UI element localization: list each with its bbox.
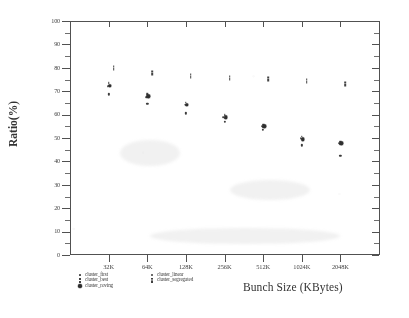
legend-marker-dot-icon xyxy=(78,272,82,277)
data-point xyxy=(345,81,347,86)
y-axis-tick-major xyxy=(62,208,70,209)
y-axis-tick-minor xyxy=(65,220,70,221)
data-point xyxy=(185,112,187,114)
y-axis-tick-minor xyxy=(65,103,70,104)
x-axis-tick-top xyxy=(302,21,303,27)
y-axis-tick-right xyxy=(372,21,379,22)
legend-marker-star-icon xyxy=(78,283,82,288)
x-axis-tick-top xyxy=(225,21,226,27)
marker-bar-icon xyxy=(306,79,308,84)
data-point xyxy=(107,93,109,95)
y-axis-tick-right xyxy=(372,255,379,256)
data-point xyxy=(151,70,153,75)
y-axis-label: 10 xyxy=(54,228,60,234)
y-axis-tick-minor xyxy=(65,173,70,174)
marker-glyph xyxy=(79,274,81,276)
legend-marker-sq-icon xyxy=(150,272,154,277)
x-axis-tick xyxy=(340,255,341,262)
y-axis-tick-major xyxy=(62,255,70,256)
y-axis-label: 30 xyxy=(54,182,60,188)
data-point xyxy=(262,128,264,130)
y-axis-tick-right xyxy=(374,150,379,151)
y-axis-tick-minor xyxy=(65,126,70,127)
x-axis-tick xyxy=(109,255,110,262)
x-axis-title: Bunch Size (KBytes) xyxy=(243,281,343,293)
marker-star-icon xyxy=(340,142,343,145)
marker-sq-icon xyxy=(223,120,225,122)
x-axis-label: 64K xyxy=(127,263,167,270)
marker-glyph xyxy=(78,284,81,287)
y-axis-tick-major xyxy=(62,21,70,22)
x-axis-tick-top xyxy=(109,21,110,27)
legend-column-right: cluster_linearcluster_segregated xyxy=(150,272,193,283)
y-axis-tick-major xyxy=(62,91,70,92)
y-axis-tick-major xyxy=(62,138,70,139)
y-axis-tick-major xyxy=(62,68,70,69)
y-axis-tick-right xyxy=(372,68,379,69)
marker-star-icon xyxy=(224,115,227,118)
y-axis-label: 60 xyxy=(54,111,60,117)
y-axis-label: 90 xyxy=(54,41,60,47)
marker-bar-icon xyxy=(345,81,347,86)
scatter-chart-figure: 0102030405060708090100 32K64K128K256K512… xyxy=(0,0,409,318)
y-axis-tick-minor xyxy=(65,243,70,244)
y-axis-tick-right xyxy=(372,138,379,139)
x-axis-tick-top xyxy=(263,21,264,27)
data-point xyxy=(224,115,227,118)
y-axis-label: 100 xyxy=(51,18,60,24)
y-axis-label: 40 xyxy=(54,158,60,164)
data-point xyxy=(113,65,115,70)
y-axis-tick-minor xyxy=(65,80,70,81)
y-axis-label: 80 xyxy=(54,65,60,71)
y-axis-tick-major xyxy=(62,115,70,116)
x-axis-tick xyxy=(263,255,264,262)
y-axis-tick-right xyxy=(374,197,379,198)
y-axis-tick-right xyxy=(374,173,379,174)
plot-area xyxy=(70,21,380,255)
data-point xyxy=(267,77,269,82)
y-axis-tick-right xyxy=(372,232,379,233)
marker-star-icon xyxy=(301,137,304,140)
marker-sq-icon xyxy=(146,103,148,105)
plot-right-border xyxy=(379,21,380,255)
marker-sq-icon xyxy=(185,112,187,114)
x-axis-label: 2048K xyxy=(320,263,360,270)
x-axis-label: 1024K xyxy=(282,263,322,270)
y-axis-tick-minor xyxy=(65,33,70,34)
y-axis-tick-major xyxy=(62,161,70,162)
y-axis-tick-right xyxy=(374,126,379,127)
x-axis-label: 512K xyxy=(243,263,283,270)
y-axis-tick-right xyxy=(372,185,379,186)
x-axis-tick-top xyxy=(340,21,341,27)
data-point xyxy=(185,103,188,106)
x-axis-tick xyxy=(147,255,148,262)
x-axis-tick-top xyxy=(147,21,148,27)
y-axis-tick-major xyxy=(62,185,70,186)
y-axis-tick-right xyxy=(372,208,379,209)
data-point xyxy=(223,120,225,122)
data-point xyxy=(146,103,148,105)
y-axis-tick-right xyxy=(374,56,379,57)
marker-bar-icon xyxy=(113,65,115,70)
y-axis-tick-right xyxy=(374,103,379,104)
y-axis-tick-major xyxy=(62,44,70,45)
x-axis-tick xyxy=(186,255,187,262)
x-axis-tick xyxy=(225,255,226,262)
marker-bar-icon xyxy=(190,73,192,78)
data-point xyxy=(229,75,231,80)
y-axis-tick-major xyxy=(62,232,70,233)
y-axis-tick-minor xyxy=(65,56,70,57)
legend-label: cluster_segregated xyxy=(157,276,193,284)
marker-glyph xyxy=(151,278,153,283)
marker-glyph xyxy=(79,278,81,282)
y-axis-title: Ratio(%) xyxy=(7,94,19,154)
y-axis-label: 50 xyxy=(54,135,60,141)
y-axis-tick-right xyxy=(372,44,379,45)
y-axis-tick-right xyxy=(374,33,379,34)
marker-star-icon xyxy=(108,84,111,87)
marker-bar-icon xyxy=(151,70,153,75)
x-axis-tick xyxy=(302,255,303,262)
y-axis-tick-right xyxy=(374,243,379,244)
legend-item: cluster_roving xyxy=(78,283,113,289)
x-axis-label: 32K xyxy=(89,263,129,270)
